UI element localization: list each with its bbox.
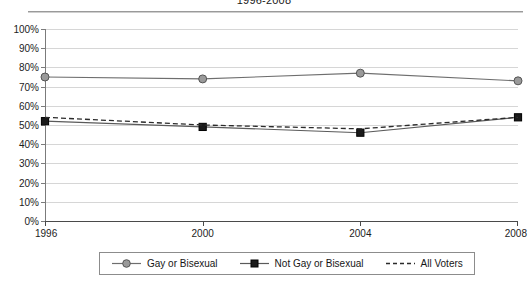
y-axis-labels: 100%90%80%70%60%50%40%30%20%10%0% — [0, 29, 39, 222]
series-line — [45, 73, 518, 81]
series-all-voters — [45, 117, 518, 129]
legend-label: Gay or Bisexual — [147, 258, 218, 269]
data-point-marker — [356, 69, 364, 77]
y-axis-tick-label: 40% — [0, 139, 39, 150]
title-divider — [28, 11, 523, 13]
legend-item-all-voters: All Voters — [385, 258, 463, 269]
y-axis-tick-label: 50% — [0, 120, 39, 131]
square-marker-icon — [239, 258, 270, 269]
data-point-marker — [41, 73, 49, 81]
series-not-gay-or-bisexual — [41, 114, 521, 137]
circle-marker-icon — [111, 258, 142, 269]
y-axis-tick-label: 0% — [0, 216, 39, 227]
chart-title: 1996-2008 — [0, 0, 528, 6]
y-axis-tick-label: 10% — [0, 196, 39, 207]
x-axis-tick-label: 2000 — [192, 228, 214, 239]
legend-label: Not Gay or Bisexual — [275, 258, 364, 269]
legend-item-gay-or-bisexual: Gay or Bisexual — [111, 258, 218, 269]
legend-label: All Voters — [421, 258, 463, 269]
series-line — [45, 117, 518, 132]
y-axis-tick-label: 60% — [0, 100, 39, 111]
x-axis-tick-label: 1996 — [35, 228, 57, 239]
series-gay-or-bisexual — [41, 69, 522, 85]
series-layer — [45, 29, 518, 222]
x-axis-tick-label: 2004 — [349, 228, 371, 239]
y-axis-tick-label: 70% — [0, 81, 39, 92]
data-point-marker — [199, 75, 207, 83]
legend-item-not-gay-or-bisexual: Not Gay or Bisexual — [239, 258, 364, 269]
chart-legend: Gay or BisexualNot Gay or BisexualAll Vo… — [99, 252, 475, 275]
data-point-marker — [41, 118, 48, 125]
x-axis-tick-label: 2008 — [505, 228, 527, 239]
data-point-marker — [514, 77, 522, 85]
y-axis-tick-label: 20% — [0, 177, 39, 188]
dashed-line-icon — [385, 258, 416, 269]
y-axis-tick-label: 90% — [0, 43, 39, 54]
y-axis-tick-label: 30% — [0, 158, 39, 169]
data-point-marker — [357, 129, 364, 136]
y-axis-tick-label: 100% — [0, 24, 39, 35]
chart-figure: 1996-2008 100%90%80%70%60%50%40%30%20%10… — [0, 0, 528, 290]
y-axis-tick-label: 80% — [0, 62, 39, 73]
series-line — [45, 117, 518, 129]
